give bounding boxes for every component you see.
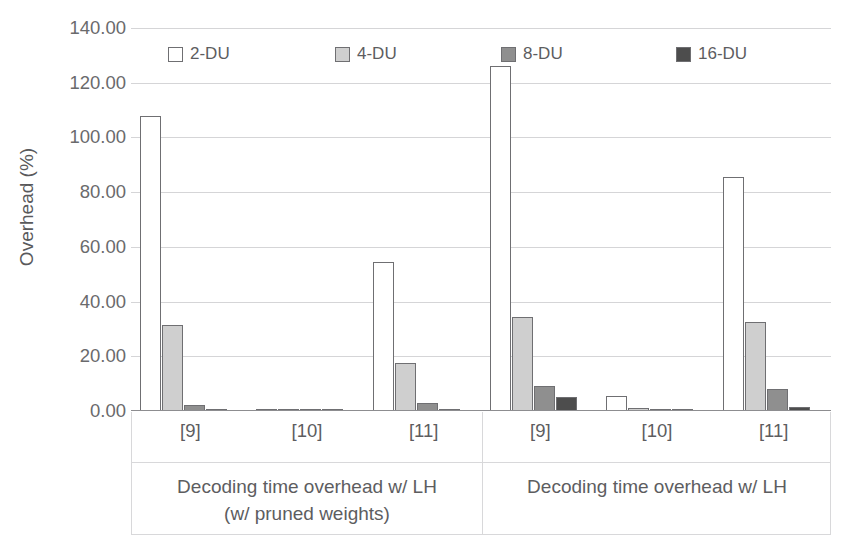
bar-2-du — [723, 177, 744, 411]
bar-cluster — [131, 28, 248, 411]
y-tick-label: 40.00 — [40, 293, 126, 312]
bar-4-du — [745, 322, 766, 411]
bar-2-du — [140, 116, 161, 411]
panel-title: Decoding time overhead w/ LH(w/ pruned w… — [132, 474, 482, 528]
bar-2-du — [373, 262, 394, 411]
bar-4-du — [162, 325, 183, 411]
bar-cluster — [598, 28, 715, 411]
category-label: [10] — [249, 420, 366, 442]
y-tick-label: 80.00 — [40, 183, 126, 202]
bar-cluster — [481, 28, 598, 411]
panel-divider — [482, 412, 483, 462]
bar-2-du — [490, 66, 511, 411]
y-tick-label: 60.00 — [40, 238, 126, 257]
y-tick-label: 100.00 — [40, 128, 126, 147]
panel-title: Decoding time overhead w/ LH — [482, 474, 832, 501]
bar-cluster — [364, 28, 481, 411]
bar-cluster — [714, 28, 831, 411]
y-tick-label: 120.00 — [40, 74, 126, 93]
bar-8-du — [767, 389, 788, 411]
bar-8-du — [534, 386, 555, 411]
plot-area — [131, 28, 831, 411]
y-tick-label: 0.00 — [40, 402, 126, 421]
bar-cluster — [248, 28, 365, 411]
y-axis-tick-labels: 140.00120.00100.0080.0060.0040.0020.000.… — [0, 0, 126, 549]
bar-4-du — [512, 317, 533, 411]
panel-title-line2: (w/ pruned weights) — [132, 501, 482, 528]
category-label: [10] — [599, 420, 716, 442]
category-label: [9] — [482, 420, 599, 442]
panel-title-band: Decoding time overhead w/ LH(w/ pruned w… — [131, 463, 831, 535]
category-label: [11] — [365, 420, 482, 442]
category-label: [11] — [715, 420, 832, 442]
y-tick-label: 20.00 — [40, 347, 126, 366]
category-label-band: [9][10][11][9][10][11] — [131, 412, 831, 463]
panel-divider — [482, 463, 483, 534]
panel-title-line1: Decoding time overhead w/ LH — [482, 474, 832, 501]
category-label: [9] — [132, 420, 249, 442]
panel-title-line1: Decoding time overhead w/ LH — [132, 474, 482, 501]
bar-4-du — [395, 363, 416, 411]
x-axis-baseline — [131, 410, 831, 412]
y-tick-label: 140.00 — [40, 19, 126, 38]
bar-chart: Overhead (%) 140.00120.00100.0080.0060.0… — [0, 0, 842, 549]
